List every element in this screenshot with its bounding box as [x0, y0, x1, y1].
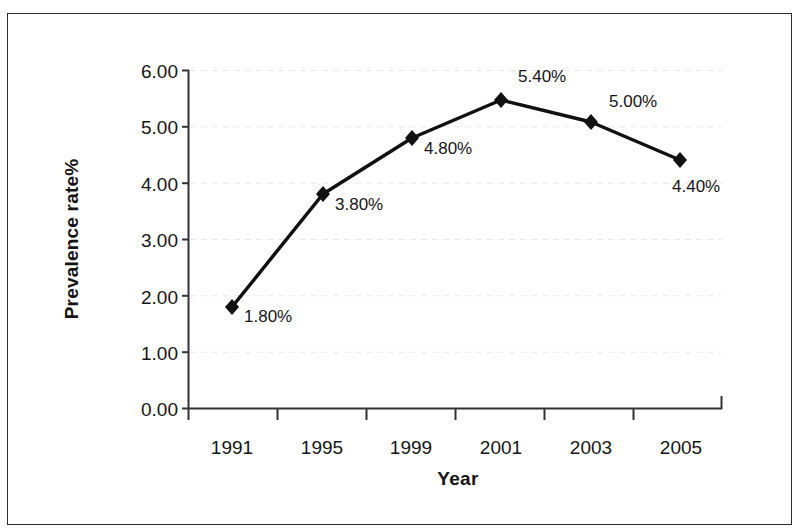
- line-chart: Prevalence rate% 6.00 5.00 4.00 3.00 2.0…: [0, 0, 799, 531]
- data-label-2003: 5.00%: [609, 93, 657, 110]
- data-label-1991: 1.80%: [244, 308, 292, 325]
- series-markers: [225, 92, 687, 315]
- chart-figure: Prevalence rate% 6.00 5.00 4.00 3.00 2.0…: [0, 0, 799, 531]
- data-label-2005: 4.40%: [672, 178, 720, 195]
- plot-canvas: [0, 0, 799, 531]
- data-label-1999: 4.80%: [424, 140, 472, 157]
- data-point-marker: [584, 114, 598, 130]
- data-point-marker: [405, 130, 419, 146]
- series-line: [232, 100, 680, 307]
- data-point-marker: [494, 92, 508, 108]
- data-label-1995: 3.80%: [335, 196, 383, 213]
- data-label-2001: 5.40%: [518, 68, 566, 85]
- data-point-marker: [673, 152, 687, 168]
